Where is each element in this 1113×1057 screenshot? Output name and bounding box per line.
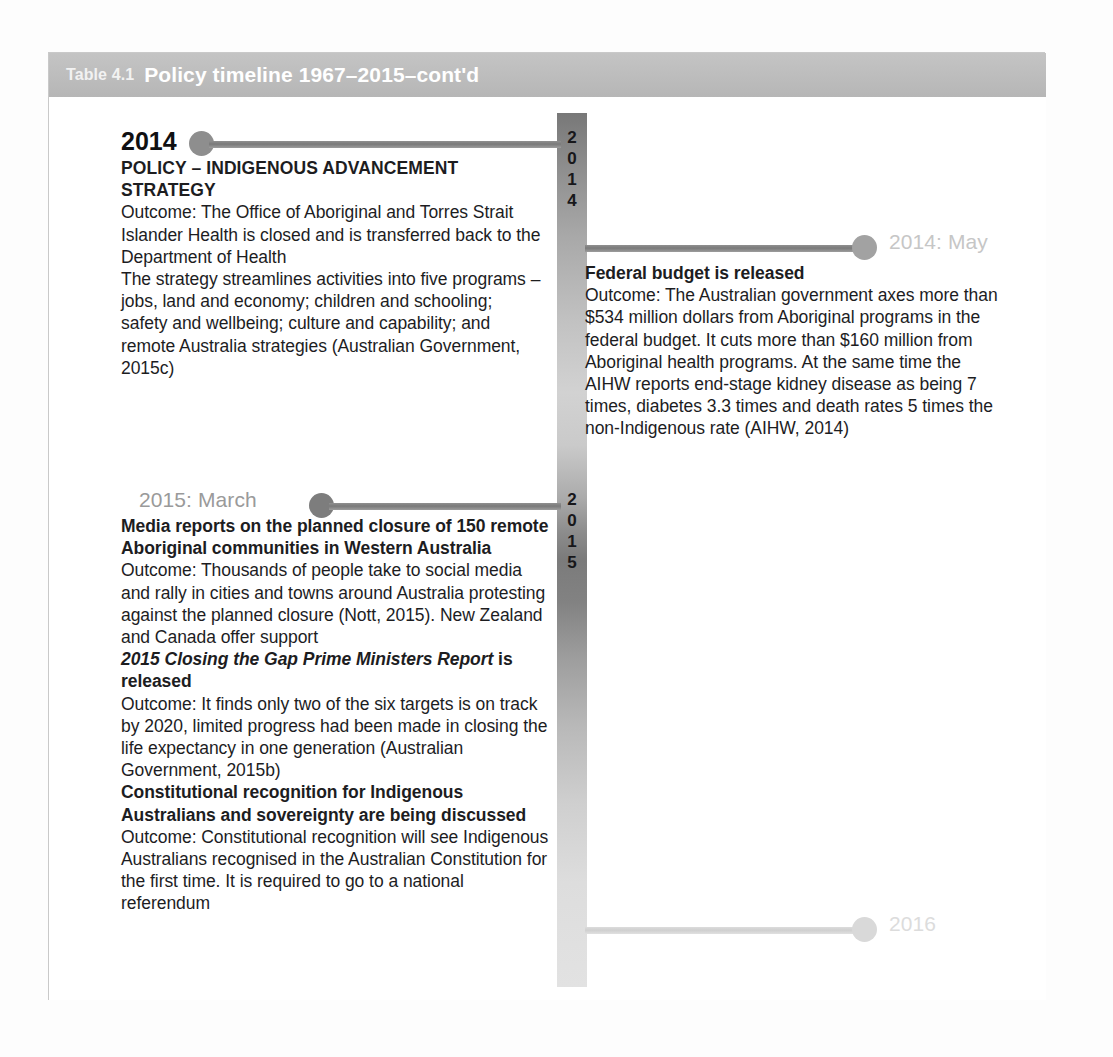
spine-year-2015: 2 0 1 5 xyxy=(557,489,587,573)
event-paragraph: Outcome: The Australian government axes … xyxy=(585,284,1005,439)
event-paragraph: Outcome: It finds only two of the six ta… xyxy=(121,693,553,782)
spine-digit: 1 xyxy=(557,169,587,190)
event-paragraph: Outcome: Thousands of people take to soc… xyxy=(121,559,553,648)
timeline-canvas: 2 0 1 4 2 0 1 5 xyxy=(49,97,1046,1000)
spine-digit: 5 xyxy=(557,552,587,573)
event-heading: Constitutional recognition for Indigenou… xyxy=(121,781,553,825)
event-heading: POLICY – INDIGENOUS ADVANCEMENT STRATEGY xyxy=(121,157,541,201)
connector-line xyxy=(329,503,561,510)
event-block-2015-march: Media reports on the planned closure of … xyxy=(121,515,553,915)
event-paragraph: Outcome: Constitutional recognition will… xyxy=(121,826,553,915)
event-block-2014: POLICY – INDIGENOUS ADVANCEMENT STRATEGY… xyxy=(121,157,541,379)
caption-title: Policy timeline 1967–2015–cont'd xyxy=(144,63,479,87)
spine-digit: 1 xyxy=(557,531,587,552)
spine-digit: 0 xyxy=(557,148,587,169)
timeline-dot-2014-may xyxy=(852,235,877,260)
spine-digit: 0 xyxy=(557,510,587,531)
connector-2014 xyxy=(189,139,561,149)
figure-root: Table 4.1 Policy timeline 1967–2015–cont… xyxy=(0,0,1113,1057)
marker-label-2014-may: 2014: May xyxy=(889,230,988,254)
marker-label-2015-march: 2015: March xyxy=(139,488,257,512)
connector-line xyxy=(585,245,859,252)
event-paragraph: The strategy streamlines activities into… xyxy=(121,268,541,379)
timeline-dot-2016 xyxy=(852,917,877,942)
event-heading: Media reports on the planned closure of … xyxy=(121,515,553,559)
spine-digit: 2 xyxy=(557,489,587,510)
event-heading-italic: 2015 Closing the Gap Prime Ministers Rep… xyxy=(121,649,493,669)
connector-line xyxy=(585,927,859,934)
spine-year-2014: 2 0 1 4 xyxy=(557,127,587,211)
connector-line xyxy=(209,141,561,148)
figure-frame: Table 4.1 Policy timeline 1967–2015–cont… xyxy=(48,52,1045,1000)
event-paragraph: Outcome: The Office of Aboriginal and To… xyxy=(121,201,541,268)
event-year-2014: 2014 xyxy=(121,127,177,156)
connector-2015-march xyxy=(309,501,561,511)
event-heading-italic-mixed: 2015 Closing the Gap Prime Ministers Rep… xyxy=(121,648,553,692)
connector-2014-may xyxy=(585,243,877,253)
event-heading: Federal budget is released xyxy=(585,262,1005,284)
spine-digit: 4 xyxy=(557,190,587,211)
event-block-2014-may: Federal budget is released Outcome: The … xyxy=(585,262,1005,440)
figure-caption-bar: Table 4.1 Policy timeline 1967–2015–cont… xyxy=(49,53,1046,97)
spine-digit: 2 xyxy=(557,127,587,148)
caption-number: Table 4.1 xyxy=(66,66,134,84)
connector-2016 xyxy=(585,925,877,935)
marker-label-2016: 2016 xyxy=(889,912,936,936)
